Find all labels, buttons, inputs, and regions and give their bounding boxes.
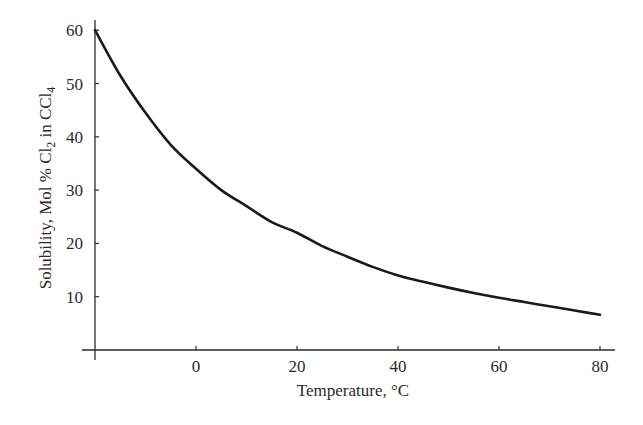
y-tick-label: 50 (66, 75, 83, 94)
x-tick-label: 20 (289, 357, 306, 376)
x-tick-label: 0 (192, 357, 201, 376)
x-axis: 020406080 (82, 346, 615, 376)
x-tick-label: 80 (592, 357, 609, 376)
y-tick-label: 40 (66, 128, 83, 147)
solubility-chart: 102030405060 020406080 Temperature, °C S… (0, 0, 643, 425)
x-tick-label: 60 (491, 357, 508, 376)
x-tick-label: 40 (390, 357, 407, 376)
y-tick-label: 20 (66, 234, 83, 253)
y-axis-title: Solubility, Mol % Cl2 in CCl4 (36, 87, 58, 290)
y-axis-title-prefix: Solubility, Mol % Cl (36, 148, 55, 290)
solubility-curve (95, 30, 600, 315)
y-axis-title-sub2: 4 (44, 87, 58, 93)
y-tick-label: 30 (66, 181, 83, 200)
x-axis-title: Temperature, °C (297, 381, 409, 400)
y-tick-label: 10 (66, 288, 83, 307)
y-tick-label: 60 (66, 21, 83, 40)
y-tick-group: 102030405060 (66, 21, 99, 307)
y-axis: 102030405060 (66, 20, 99, 360)
y-axis-title-mid: in CCl (36, 92, 55, 141)
